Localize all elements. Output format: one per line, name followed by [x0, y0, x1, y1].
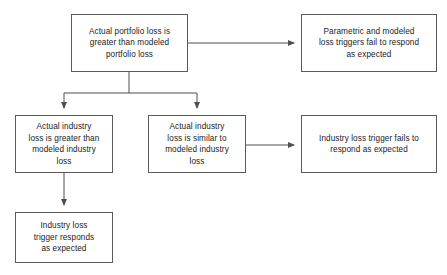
node-industry-loss-greater: Actual industry loss is greater than mod… — [15, 115, 113, 173]
node-label: Actual industry loss is similar to model… — [165, 121, 229, 167]
node-label: Industry loss trigger responds as expect… — [34, 220, 94, 255]
node-label: Actual portfolio loss is greater than mo… — [89, 26, 170, 61]
node-industry-trigger-fail: Industry loss trigger fails to respond a… — [301, 115, 437, 173]
flowchart-canvas: Actual portfolio loss is greater than mo… — [0, 0, 447, 275]
node-label: Parametric and modeled loss triggers fai… — [319, 26, 419, 61]
node-parametric-fail: Parametric and modeled loss triggers fai… — [301, 14, 437, 72]
node-label: Industry loss trigger fails to respond a… — [319, 133, 419, 156]
node-portfolio-loss-greater: Actual portfolio loss is greater than mo… — [71, 14, 188, 72]
node-industry-trigger-ok: Industry loss trigger responds as expect… — [15, 212, 113, 263]
node-industry-loss-similar: Actual industry loss is similar to model… — [148, 115, 246, 173]
node-label: Actual industry loss is greater than mod… — [29, 121, 100, 167]
